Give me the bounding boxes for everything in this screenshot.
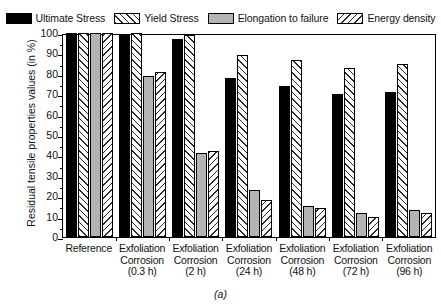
- x-category-line: (72 h): [329, 266, 382, 278]
- y-tick-minor-35: [60, 168, 63, 169]
- x-category-line: Exfoliation: [329, 243, 382, 255]
- x-category-line: Exfoliation: [115, 243, 168, 255]
- bar-1-group-2: [119, 35, 130, 237]
- bar-group: [382, 35, 435, 237]
- y-tick-60: [58, 117, 63, 118]
- y-tick-minor-85: [60, 66, 63, 67]
- x-axis-category-labels: ReferenceExfoliationCorrosion(0.3 h)Exfo…: [62, 243, 436, 289]
- x-category-line: Exfoliation: [169, 243, 222, 255]
- y-tick-10: [58, 219, 63, 220]
- y-tick-minor-95: [60, 45, 63, 46]
- legend-swatch-elongation-to-failure: [208, 13, 234, 24]
- x-category-line: (0.3 h): [115, 266, 168, 278]
- y-axis-tick-labels: 0102030405060708090100: [30, 34, 58, 238]
- legend-item-yield-stress: Yield Stress: [114, 13, 198, 24]
- bar-3-group-2: [143, 76, 154, 237]
- bar-groups: [63, 35, 435, 237]
- bar-2-group-7: [397, 64, 408, 237]
- bar-3-group-1: [90, 33, 101, 237]
- y-tick-100: [58, 35, 63, 36]
- y-tick-20: [58, 198, 63, 199]
- bar-4-group-2: [155, 72, 166, 237]
- x-category-line: Exfoliation: [276, 243, 329, 255]
- bar-group: [329, 35, 382, 237]
- bar-group: [222, 35, 275, 237]
- bar-2-group-5: [291, 60, 302, 237]
- bar-4-group-5: [315, 208, 326, 237]
- plot-area: [62, 34, 436, 238]
- x-category-line: (48 h): [276, 266, 329, 278]
- legend-label-yield-stress: Yield Stress: [144, 13, 198, 24]
- x-category-line: Exfoliation: [383, 243, 436, 255]
- figure-caption: (a): [0, 288, 441, 300]
- y-tick-label-90: 90: [32, 48, 58, 58]
- y-tick-label-10: 10: [32, 212, 58, 222]
- bar-1-group-1: [66, 33, 77, 237]
- y-tick-label-70: 70: [32, 89, 58, 99]
- bar-2-group-1: [78, 33, 89, 237]
- bar-2-group-4: [237, 55, 248, 237]
- legend-item-ultimate-stress: Ultimate Stress: [6, 13, 106, 24]
- legend-label-elongation-to-failure: Elongation to failure: [238, 13, 329, 24]
- bar-4-group-7: [421, 213, 432, 237]
- bar-2-group-6: [344, 68, 355, 237]
- x-category-label-6: ExfoliationCorrosion(72 h): [329, 243, 382, 289]
- x-category-line: (2 h): [169, 266, 222, 278]
- y-tick-40: [58, 157, 63, 158]
- bar-1-group-7: [385, 92, 396, 237]
- bar-1-group-6: [332, 94, 343, 237]
- x-category-label-2: ExfoliationCorrosion(0.3 h): [115, 243, 168, 289]
- bar-3-group-4: [249, 190, 260, 237]
- x-category-label-4: ExfoliationCorrosion(24 h): [222, 243, 275, 289]
- legend-swatch-yield-stress: [114, 13, 140, 24]
- bar-4-group-6: [368, 217, 379, 237]
- bar-4-group-4: [261, 200, 272, 237]
- y-tick-50: [58, 137, 63, 138]
- bar-3-group-5: [303, 206, 314, 237]
- bar-1-group-3: [172, 39, 183, 237]
- bar-2-group-2: [131, 33, 142, 237]
- y-tick-label-0: 0: [32, 232, 58, 242]
- y-tick-label-40: 40: [32, 150, 58, 160]
- x-category-line: (96 h): [383, 266, 436, 278]
- y-tick-minor-75: [60, 86, 63, 87]
- x-tick-3: [222, 237, 223, 241]
- y-tick-label-30: 30: [32, 171, 58, 181]
- y-tick-minor-5: [60, 229, 63, 230]
- bar-group: [116, 35, 169, 237]
- bar-4-group-3: [208, 151, 219, 237]
- y-tick-label-100: 100: [32, 28, 58, 38]
- y-tick-label-20: 20: [32, 191, 58, 201]
- x-category-line: Exfoliation: [222, 243, 275, 255]
- legend-label-energy-density: Energy density: [367, 13, 435, 24]
- y-tick-minor-25: [60, 188, 63, 189]
- y-tick-minor-15: [60, 208, 63, 209]
- y-tick-0: [58, 239, 63, 240]
- y-tick-30: [58, 178, 63, 179]
- y-tick-minor-65: [60, 106, 63, 107]
- bar-3-group-7: [409, 210, 420, 237]
- y-tick-minor-55: [60, 127, 63, 128]
- legend-swatch-energy-density: [337, 13, 363, 24]
- legend-label-ultimate-stress: Ultimate Stress: [36, 13, 106, 24]
- y-tick-80: [58, 76, 63, 77]
- legend-swatch-ultimate-stress: [6, 13, 32, 24]
- x-category-label-1: Reference: [62, 243, 115, 289]
- x-tick-6: [382, 237, 383, 241]
- legend-item-elongation-to-failure: Elongation to failure: [208, 13, 329, 24]
- bar-group: [63, 35, 116, 237]
- figure-panel-a: Ultimate Stress Yield Stress Elongation …: [0, 0, 441, 308]
- y-tick-70: [58, 96, 63, 97]
- x-tick-2: [169, 237, 170, 241]
- bar-1-group-5: [279, 86, 290, 237]
- bar-4-group-1: [102, 33, 113, 237]
- bar-group: [169, 35, 222, 237]
- bar-group: [276, 35, 329, 237]
- bar-1-group-4: [225, 78, 236, 237]
- x-category-line: Reference: [62, 243, 115, 255]
- x-category-label-3: ExfoliationCorrosion(2 h): [169, 243, 222, 289]
- x-tick-1: [116, 237, 117, 241]
- bar-3-group-6: [356, 213, 367, 237]
- bar-3-group-3: [196, 153, 207, 237]
- x-category-line: (24 h): [222, 266, 275, 278]
